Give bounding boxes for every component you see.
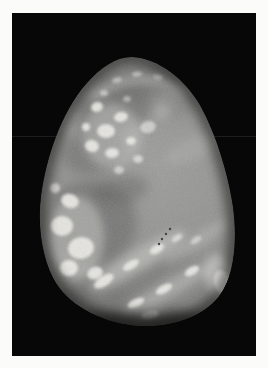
stone-photograph <box>0 0 268 368</box>
scanned-page <box>0 0 268 368</box>
